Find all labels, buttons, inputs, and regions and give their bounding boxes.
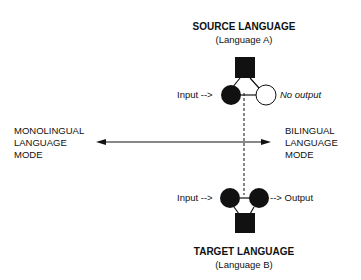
target-language-title: TARGET LANGUAGE: [194, 246, 294, 258]
source-input-label: Input -->: [177, 89, 213, 101]
source-network: [221, 57, 276, 105]
arrowhead-left-icon: [96, 139, 106, 145]
source-language-title: SOURCE LANGUAGE: [193, 21, 296, 33]
source-output-label: No output: [280, 89, 321, 101]
source-language-subtitle: (Language A): [215, 34, 272, 46]
arrowhead-right-icon: [261, 139, 271, 145]
target-language-subtitle: (Language B): [215, 259, 273, 271]
target-output-label: --> Output: [270, 192, 313, 204]
source-output-node: [256, 85, 276, 105]
target-output-node: [249, 188, 269, 208]
target-square-node: [235, 213, 255, 233]
source-input-node: [221, 85, 241, 105]
language-mode-axis: [96, 139, 271, 145]
source-square-node: [235, 57, 255, 78]
target-input-label: Input -->: [177, 192, 213, 204]
target-input-node: [220, 188, 240, 208]
